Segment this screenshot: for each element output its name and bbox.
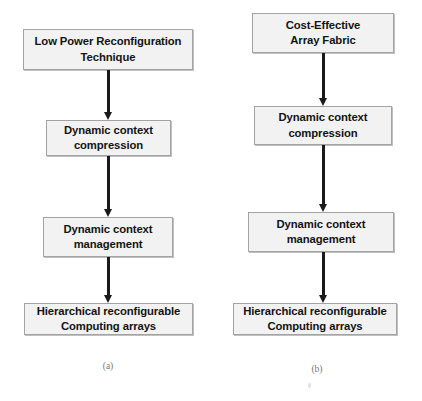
flow-arrow-down-icon — [100, 70, 117, 120]
flow-arrow-down-icon — [315, 252, 332, 303]
flow-arrow-down-icon — [315, 53, 332, 106]
figure-caption-b: (b) — [297, 364, 337, 374]
flow-node-label: Hierarchical reconfigurable Computing ar… — [29, 304, 188, 334]
flow-node-dynamic-context-management-b[interactable]: Dynamic context management — [248, 212, 394, 252]
flow-node-label: Cost-Effective Array Fabric — [257, 18, 389, 48]
flow-node-label: Low Power Reconfiguration Technique — [28, 34, 188, 64]
flowchart-figure: Low Power Reconfiguration Technique Dyna… — [0, 0, 422, 401]
flow-arrow-down-icon — [100, 257, 117, 303]
flow-node-cost-effective-array-fabric[interactable]: Cost-Effective Array Fabric — [252, 13, 394, 53]
flow-node-label: Dynamic context management — [253, 217, 389, 247]
flow-node-label: Dynamic context management — [48, 222, 168, 252]
flow-node-hierarchical-reconfigurable-computing-arrays-b[interactable]: Hierarchical reconfigurable Computing ar… — [233, 303, 397, 335]
flow-node-low-power-reconfiguration-technique[interactable]: Low Power Reconfiguration Technique — [23, 29, 193, 70]
flow-arrow-down-icon — [315, 145, 332, 212]
flow-node-hierarchical-reconfigurable-computing-arrays-a[interactable]: Hierarchical reconfigurable Computing ar… — [24, 303, 193, 335]
scan-artifact-speck — [308, 383, 311, 388]
figure-caption-a: (a) — [88, 361, 128, 371]
flow-node-label: Hierarchical reconfigurable Computing ar… — [238, 304, 392, 334]
flow-arrow-down-icon — [100, 156, 117, 217]
flow-node-dynamic-context-management-a[interactable]: Dynamic context management — [43, 217, 173, 257]
flow-node-label: Dynamic context compression — [259, 110, 387, 140]
flow-node-dynamic-context-compression-b[interactable]: Dynamic context compression — [254, 106, 392, 145]
flow-node-dynamic-context-compression-a[interactable]: Dynamic context compression — [46, 120, 171, 156]
flow-node-label: Dynamic context compression — [51, 123, 166, 153]
